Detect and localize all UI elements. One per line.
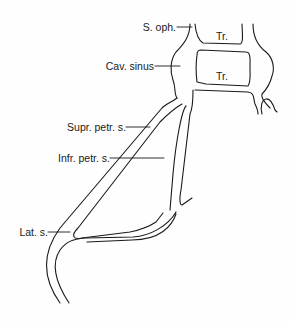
lower-tr-bottom (195, 90, 258, 114)
right-outer-wall (253, 24, 273, 108)
label-infr-petr: Infr. petr. s. (30, 152, 110, 164)
label-supr-petr: Supr. petr. s. (40, 121, 126, 133)
label-tr-lower: Tr. (216, 70, 228, 82)
label-lat-s: Lat. s. (5, 226, 48, 238)
label-cav-sinus: Cav. sinus (92, 60, 154, 72)
cavernous-sinus-left-wall (171, 24, 190, 98)
lat-sinus-inner (55, 212, 176, 303)
label-tr-upper: Tr. (216, 30, 228, 42)
label-s-oph: S. oph. (130, 21, 176, 33)
infr-petr-inner (170, 106, 186, 210)
infr-petr-outer (180, 90, 193, 205)
diagram-canvas: S. oph. Cav. sinus Tr. Tr. Supr. petr. s… (0, 0, 290, 325)
